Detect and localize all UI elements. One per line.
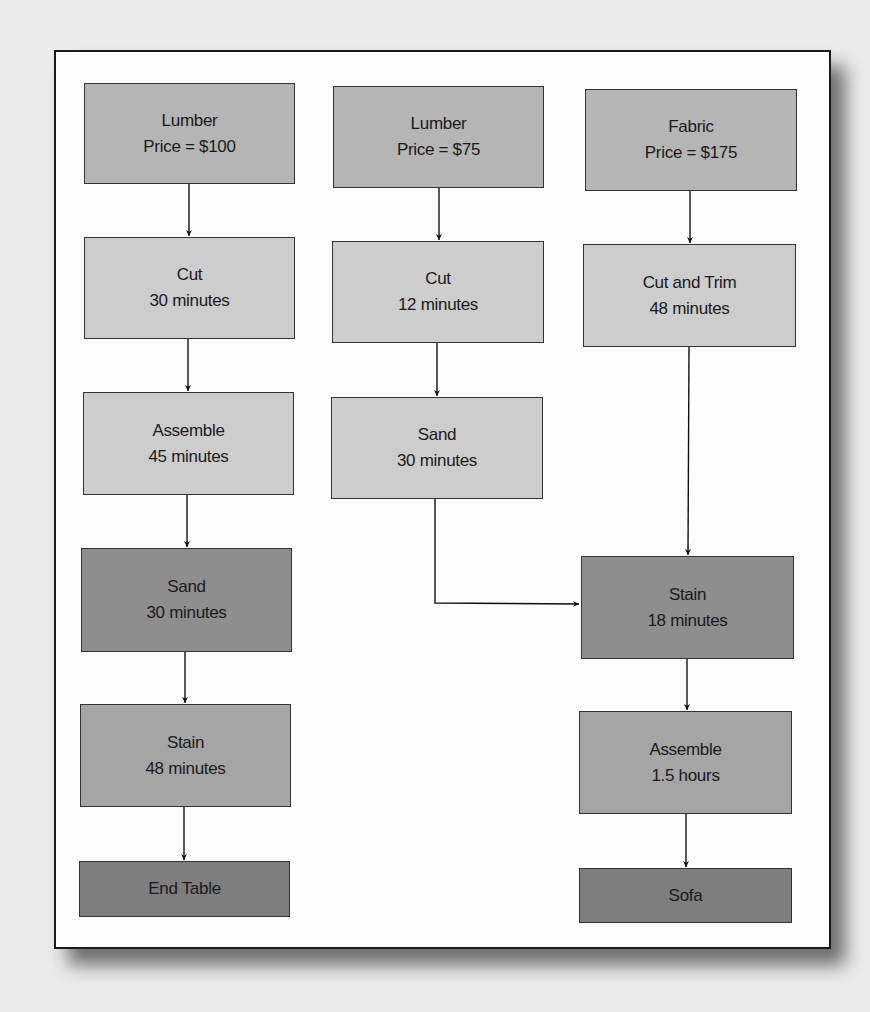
node-title: Assemble [649, 737, 721, 763]
node-lumber-100: Lumber Price = $100 [84, 83, 295, 184]
node-title: End Table [148, 876, 221, 902]
node-title: Assemble [152, 418, 224, 444]
node-lumber-75: Lumber Price = $75 [333, 86, 544, 188]
node-title: Cut [425, 266, 451, 292]
node-title: Cut and Trim [643, 270, 737, 296]
node-detail: 48 minutes [145, 756, 225, 782]
node-title: Fabric [668, 114, 713, 140]
node-title: Sand [418, 422, 457, 448]
node-detail: 12 minutes [398, 292, 478, 318]
node-detail: 48 minutes [649, 296, 729, 322]
node-cut-30: Cut 30 minutes [84, 237, 295, 339]
node-title: Lumber [162, 108, 218, 134]
node-title: Stain [167, 730, 204, 756]
node-fabric-175: Fabric Price = $175 [585, 89, 797, 191]
node-detail: Price = $175 [645, 140, 737, 166]
node-cut-trim-48: Cut and Trim 48 minutes [583, 244, 796, 347]
node-end-table: End Table [79, 861, 290, 917]
node-title: Sofa [669, 883, 703, 909]
node-detail: Price = $100 [143, 134, 235, 160]
node-stain-18: Stain 18 minutes [581, 556, 794, 659]
node-detail: 30 minutes [397, 448, 477, 474]
node-title: Lumber [411, 111, 467, 137]
node-sand-30-col1: Sand 30 minutes [81, 548, 292, 652]
node-assemble-1-5h: Assemble 1.5 hours [579, 711, 792, 814]
node-stain-48: Stain 48 minutes [80, 704, 291, 807]
node-detail: 45 minutes [148, 444, 228, 470]
node-sand-30-col2: Sand 30 minutes [331, 397, 543, 499]
node-detail: 18 minutes [647, 608, 727, 634]
node-detail: 30 minutes [149, 288, 229, 314]
node-sofa: Sofa [579, 868, 792, 923]
node-title: Sand [167, 574, 206, 600]
node-title: Stain [669, 582, 706, 608]
node-detail: 1.5 hours [651, 763, 719, 789]
node-cut-12: Cut 12 minutes [332, 241, 544, 343]
node-assemble-45: Assemble 45 minutes [83, 392, 294, 495]
node-detail: Price = $75 [397, 137, 480, 163]
node-title: Cut [177, 262, 203, 288]
node-detail: 30 minutes [146, 600, 226, 626]
